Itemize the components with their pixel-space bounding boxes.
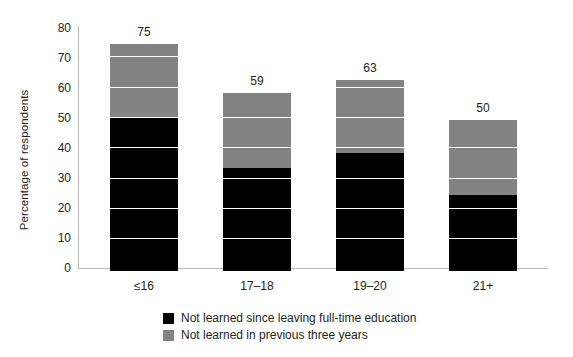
legend-swatch-icon-0: [163, 313, 174, 324]
y-tick-label-10: 10: [58, 231, 71, 245]
legend-item-1: Not learned in previous three years: [163, 327, 503, 344]
bar-group-0: 75: [110, 28, 178, 271]
y-tick-label-70: 70: [58, 51, 71, 65]
legend-label-0: Not learned since leaving full-time educ…: [181, 310, 416, 327]
x-tick-label-2: 19–20: [353, 279, 386, 293]
bar-value-label-0: 75: [137, 25, 150, 39]
y-tick-label-0: 0: [64, 261, 71, 275]
chart-legend: Not learned since leaving full-time educ…: [163, 310, 503, 344]
y-tick-label-50: 50: [58, 111, 71, 125]
stacked-bar-chart: Percentage of respondents 80 70 60 50 40…: [0, 0, 573, 357]
x-tick-label-1: 17–18: [240, 279, 273, 293]
bar-stack-3: [449, 120, 517, 271]
bar-segment-not-learned-since-leaving-full-time-education-3: [449, 195, 517, 271]
bar-value-label-1: 59: [250, 74, 263, 88]
bar-stack-1: [223, 93, 291, 271]
y-tick-label-60: 60: [58, 81, 71, 95]
bar-stack-2: [336, 80, 404, 271]
bar-group-2: 63: [336, 28, 404, 271]
y-axis-line: [78, 26, 79, 269]
legend-swatch-icon-1: [163, 330, 174, 341]
y-tick-label-20: 20: [58, 201, 71, 215]
bar-segment-not-learned-in-previous-three-years-2: [336, 80, 404, 153]
plot-area: 80 70 60 50 40 30 20 10 0 75 59 63: [78, 26, 548, 271]
bar-value-label-3: 50: [476, 101, 489, 115]
x-tick-label-0: ≤16: [134, 279, 154, 293]
x-tick-label-3: 21+: [473, 279, 493, 293]
bar-segment-not-learned-in-previous-three-years-0: [110, 44, 178, 117]
bar-stack-0: [110, 44, 178, 271]
y-tick-label-80: 80: [58, 21, 71, 35]
bar-segment-not-learned-since-leaving-full-time-education-0: [110, 117, 178, 271]
legend-label-1: Not learned in previous three years: [181, 327, 368, 344]
legend-item-0: Not learned since leaving full-time educ…: [163, 310, 503, 327]
bar-value-label-2: 63: [363, 61, 376, 75]
bar-segment-not-learned-since-leaving-full-time-education-2: [336, 153, 404, 271]
bar-group-1: 59: [223, 28, 291, 271]
bar-group-3: 50: [449, 28, 517, 271]
y-tick-label-30: 30: [58, 171, 71, 185]
y-axis-title: Percentage of respondents: [13, 40, 35, 280]
bar-segment-not-learned-in-previous-three-years-1: [223, 93, 291, 169]
bar-segment-not-learned-since-leaving-full-time-education-1: [223, 168, 291, 271]
bar-segment-not-learned-in-previous-three-years-3: [449, 120, 517, 196]
y-tick-label-40: 40: [58, 141, 71, 155]
